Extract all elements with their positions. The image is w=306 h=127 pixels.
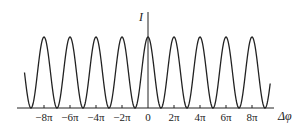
x-tick-label: 2π: [168, 111, 180, 123]
x-tick-label: 8π: [246, 111, 258, 123]
x-tick-label: −2π: [113, 111, 131, 123]
x-tick-label: 0: [145, 111, 151, 123]
x-axis-label: Δφ: [277, 109, 292, 123]
y-axis-label: I: [138, 10, 144, 24]
x-tick-label: −6π: [61, 111, 79, 123]
x-axis-tick-labels: −8π−6π−4π−2π02π4π6π8π: [35, 111, 258, 123]
interference-intensity-chart: −8π−6π−4π−2π02π4π6π8π I Δφ: [0, 0, 306, 127]
x-tick-label: 6π: [220, 111, 232, 123]
intensity-curve: [25, 37, 271, 108]
x-tick-label: 4π: [194, 111, 206, 123]
x-tick-label: −4π: [87, 111, 105, 123]
x-tick-label: −8π: [35, 111, 53, 123]
